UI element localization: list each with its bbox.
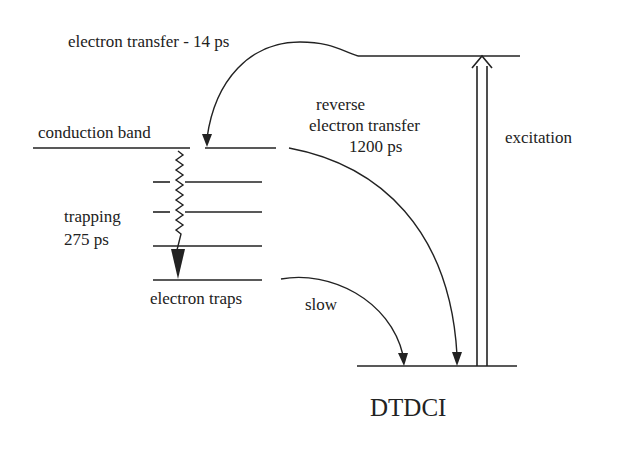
trapping-label-1: trapping: [64, 207, 121, 226]
reverse-electron-transfer-arrow: [289, 148, 457, 355]
reverse-electron-transfer-label-3: 1200 ps: [349, 137, 402, 156]
trapping-label-2: 275 ps: [64, 230, 109, 249]
excitation-label: excitation: [505, 128, 573, 147]
slow-label: slow: [305, 295, 338, 314]
electron-transfer-arrowhead: [202, 134, 212, 147]
electron-traps-label: electron traps: [150, 289, 242, 308]
slow-arrowhead: [398, 353, 408, 366]
dtdci-label: DTDCI: [370, 394, 446, 421]
energy-level-diagram: electron transfer - 14 ps conduction ban…: [0, 0, 619, 451]
electron-transfer-label: electron transfer - 14 ps: [68, 32, 229, 51]
reverse-electron-transfer-label-1: reverse: [316, 95, 365, 114]
conduction-band-label: conduction band: [38, 123, 151, 142]
reverse-electron-transfer-arrowhead: [452, 352, 462, 366]
trapping-wavy-arrow: [176, 151, 183, 250]
slow-arrow: [281, 277, 403, 355]
trapping-arrowhead: [171, 249, 185, 279]
excitation-arrowhead: [472, 56, 492, 68]
reverse-electron-transfer-label-2: electron transfer: [309, 116, 420, 135]
